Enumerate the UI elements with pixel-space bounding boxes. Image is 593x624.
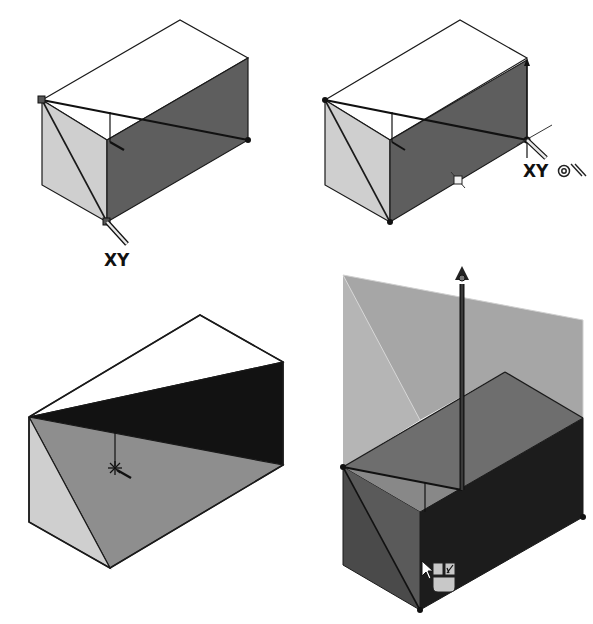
parallel-snap-icon	[571, 164, 586, 176]
xy-label: XY	[104, 250, 130, 270]
concentric-snap-icon	[559, 166, 570, 177]
start-vertex-dot[interactable]	[322, 97, 328, 103]
panel-4-extrude-preview	[340, 266, 586, 613]
triad-handle-icon[interactable]	[527, 140, 546, 158]
end-vertex-dot[interactable]	[245, 137, 251, 143]
start-vertex-square[interactable]	[38, 96, 45, 103]
panel-3-cut-box	[29, 315, 283, 568]
vertex-dot[interactable]	[580, 514, 586, 520]
vertex-dot[interactable]	[417, 607, 423, 613]
diagram-canvas: XY XY	[0, 0, 593, 624]
xy-label: XY	[523, 161, 549, 181]
vertex-dot[interactable]	[340, 464, 346, 470]
panel-2-box: XY	[322, 20, 586, 225]
panel-1-box: XY	[38, 20, 251, 270]
options-button[interactable]	[433, 577, 455, 592]
bottom-vertex-dot[interactable]	[387, 219, 393, 225]
confirm-button[interactable]	[433, 563, 443, 575]
triad-handle-icon[interactable]	[107, 222, 127, 244]
